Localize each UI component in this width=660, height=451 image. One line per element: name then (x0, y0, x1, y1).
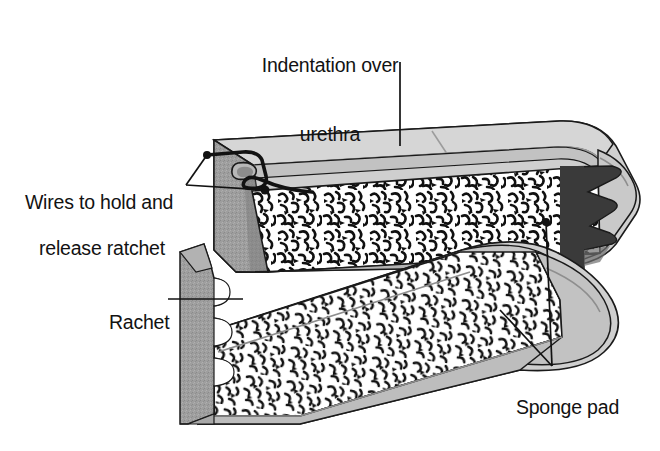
label-sponge-pad: Sponge pad (495, 373, 619, 442)
diagram-figure: Indentation over urethra Wires to hold a… (0, 0, 660, 451)
label-wires-line2: release ratchet (4, 237, 200, 260)
label-indentation-over-urethra: Indentation over urethra (0, 8, 660, 192)
ratchet-arm-notches (214, 278, 234, 386)
label-rachet: Rachet (88, 288, 169, 357)
leader-dots (542, 218, 550, 226)
label-wires-line1: Wires to hold and (25, 191, 173, 213)
label-rachet-line1: Rachet (109, 311, 170, 333)
label-sponge-line1: Sponge pad (516, 396, 619, 418)
label-indentation-line2: urethra (0, 123, 660, 146)
sponge-dot-upper (542, 218, 550, 226)
label-indentation-line1: Indentation over (0, 54, 660, 77)
label-wires-to-hold-and-release-ratchet: Wires to hold and release ratchet (4, 168, 200, 306)
